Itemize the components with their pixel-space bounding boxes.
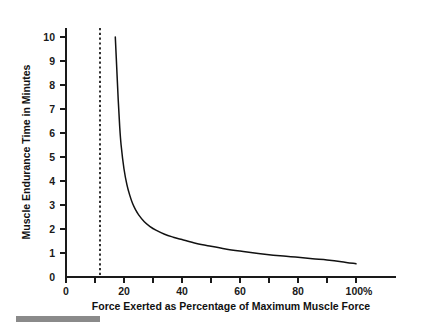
x-tick-label: 80 [292,285,304,297]
y-tick-label: 6 [49,127,55,139]
x-axis-title: Force Exerted as Percentage of Maximum M… [92,300,371,312]
y-axis-ticks [60,37,66,253]
endurance-curve [115,37,356,264]
x-tick-label: 0 [63,285,69,297]
x-tick-label: 60 [234,285,246,297]
y-tick-label: 4 [49,175,55,187]
y-tick-label: 10 [43,31,55,43]
y-tick-label: 3 [49,199,55,211]
y-tick-label: 9 [49,55,55,67]
y-tick-label: 8 [49,79,55,91]
y-axis-title: Muscle Endurance Time in Minutes [20,64,32,239]
y-tick-label: 0 [49,271,55,283]
footer-rule [16,316,100,322]
x-axis-ticks [66,277,356,283]
x-tick-label: 20 [118,285,130,297]
x-axis-tick-labels: 0 20 40 60 80 100% [63,285,373,297]
x-tick-label: 40 [176,285,188,297]
chart-figure: 10 9 8 7 6 5 4 3 2 1 0 0 [0,0,428,326]
x-tick-label: 100% [346,285,374,297]
y-tick-label: 7 [49,103,55,115]
y-tick-label: 1 [49,247,55,259]
muscle-endurance-line-chart: 10 9 8 7 6 5 4 3 2 1 0 0 [0,0,428,326]
y-tick-label: 2 [49,223,55,235]
y-axis-tick-labels: 10 9 8 7 6 5 4 3 2 1 0 [43,31,55,283]
y-tick-label: 5 [49,151,55,163]
